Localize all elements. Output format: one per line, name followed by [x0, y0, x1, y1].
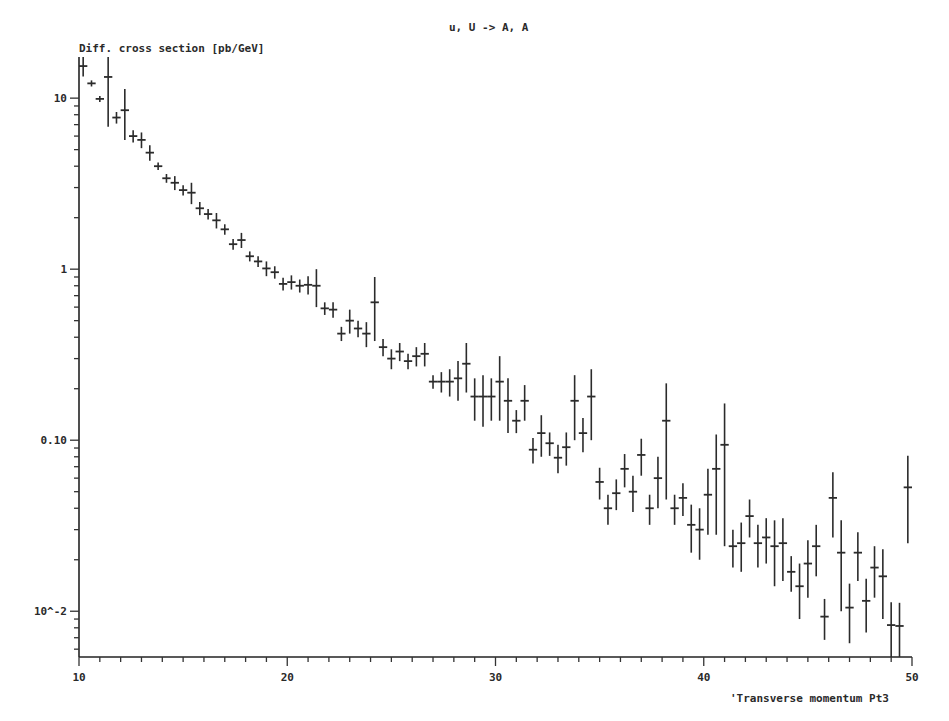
data-points: [79, 57, 912, 657]
x-tick-label: 10: [72, 671, 85, 684]
data-point: [570, 375, 578, 440]
y-tick-label: 1: [60, 263, 67, 276]
data-point: [662, 383, 670, 499]
data-point: [496, 356, 504, 421]
data-point: [146, 145, 154, 161]
data-point: [862, 579, 870, 633]
data-point: [645, 495, 653, 525]
data-point: [720, 403, 728, 546]
data-point: [104, 57, 112, 127]
data-point: [162, 174, 170, 183]
data-point: [271, 266, 279, 278]
data-point: [712, 434, 720, 534]
data-point: [354, 321, 362, 338]
data-point: [279, 278, 287, 291]
y-tick-label: 0.10: [41, 434, 68, 447]
y-axis-label: Diff. cross section [pb/GeV]: [79, 42, 264, 55]
data-point: [695, 508, 703, 559]
data-point: [754, 525, 762, 568]
data-point: [287, 275, 295, 289]
data-point: [512, 410, 520, 433]
y-ticks: 1010.1010^-2: [34, 92, 79, 649]
data-point: [212, 213, 220, 228]
data-point: [887, 602, 895, 657]
data-point: [129, 130, 137, 142]
data-point: [312, 269, 320, 307]
data-point: [87, 80, 95, 86]
data-point: [204, 209, 212, 220]
data-point: [171, 176, 179, 190]
x-tick-label: 40: [697, 671, 710, 684]
data-point: [254, 256, 262, 267]
data-point: [429, 375, 437, 389]
data-point: [729, 530, 737, 568]
data-point: [196, 202, 204, 215]
data-point: [604, 495, 612, 525]
data-point: [595, 468, 603, 500]
data-point: [96, 96, 104, 102]
data-point: [112, 112, 120, 124]
data-point: [654, 457, 662, 508]
axes: [79, 57, 912, 657]
data-point: [237, 233, 245, 248]
chart-title: u, U -> A, A: [449, 21, 529, 34]
data-point: [679, 483, 687, 516]
data-point: [404, 354, 412, 369]
data-point: [137, 132, 145, 148]
data-point: [870, 546, 878, 597]
data-point: [487, 378, 495, 420]
data-point: [770, 520, 778, 586]
data-point: [79, 57, 87, 76]
data-point: [829, 472, 837, 537]
data-point: [262, 261, 270, 276]
data-point: [437, 372, 445, 392]
data-point: [346, 310, 354, 334]
data-point: [504, 378, 512, 433]
data-point: [787, 556, 795, 592]
data-point: [446, 369, 454, 396]
data-point: [895, 603, 903, 657]
data-point: [329, 302, 337, 317]
y-tick-label: 10^-2: [34, 605, 67, 618]
data-point: [362, 322, 370, 347]
data-point: [554, 445, 562, 474]
data-point: [904, 456, 912, 543]
cross-section-chart: u, U -> A, A Diff. cross section [pb/GeV…: [0, 0, 949, 721]
x-ticks: 1020304050: [72, 657, 918, 684]
data-point: [304, 276, 312, 294]
data-point: [229, 239, 237, 250]
data-point: [379, 339, 387, 356]
data-point: [537, 415, 545, 457]
data-point: [820, 599, 828, 640]
x-tick-label: 30: [489, 671, 502, 684]
data-point: [762, 518, 770, 563]
data-point: [471, 378, 479, 420]
x-axis-label: 'Transverse momentum Pt3: [730, 692, 889, 705]
data-point: [737, 523, 745, 572]
data-point: [545, 432, 553, 455]
data-point: [637, 439, 645, 476]
data-point: [704, 469, 712, 535]
data-point: [296, 280, 304, 293]
data-point: [337, 327, 345, 341]
data-point: [629, 476, 637, 512]
y-tick-label: 10: [54, 92, 67, 105]
data-point: [529, 438, 537, 464]
data-point: [795, 564, 803, 620]
data-point: [187, 183, 195, 204]
data-point: [179, 185, 187, 195]
data-point: [579, 418, 587, 452]
data-point: [612, 479, 620, 510]
data-point: [587, 369, 595, 440]
data-point: [804, 540, 812, 597]
data-point: [562, 432, 570, 465]
data-point: [462, 343, 470, 393]
data-point: [246, 251, 254, 261]
data-point: [321, 302, 329, 315]
data-point: [121, 89, 129, 140]
data-point: [837, 520, 845, 611]
data-point: [745, 500, 753, 538]
data-point: [845, 584, 853, 644]
data-point: [687, 505, 695, 553]
data-point: [620, 454, 628, 487]
